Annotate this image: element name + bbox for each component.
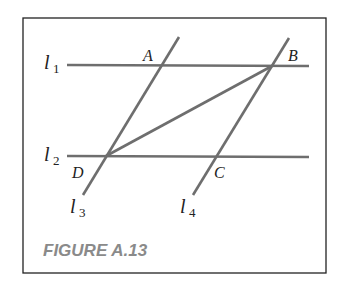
segment-bd xyxy=(106,66,272,156)
label-l3-sub: 3 xyxy=(79,205,86,220)
figure-diagram: l 1 l 2 l 3 l 4 A B C D FIGURE A.13 xyxy=(0,0,338,295)
label-l4-sub: 4 xyxy=(189,205,196,220)
label-l2-sub: 2 xyxy=(53,153,60,168)
figure-border xyxy=(23,18,326,273)
figure-caption: FIGURE A.13 xyxy=(43,241,148,260)
label-l1-sub: 1 xyxy=(53,61,60,76)
point-a: A xyxy=(142,47,153,64)
line-l4 xyxy=(193,38,289,195)
line-l3 xyxy=(83,37,179,195)
label-l4: l xyxy=(180,195,186,217)
label-l3: l xyxy=(70,195,76,217)
label-l1: l xyxy=(44,51,50,73)
point-d: D xyxy=(71,164,84,181)
point-c: C xyxy=(214,164,225,181)
label-l2: l xyxy=(44,143,50,165)
line-l2 xyxy=(67,156,309,157)
point-b: B xyxy=(288,47,298,64)
